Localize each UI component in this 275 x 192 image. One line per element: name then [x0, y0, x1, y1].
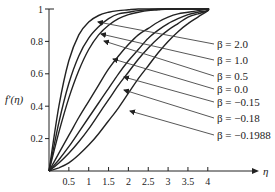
leader-arrow-icon [124, 77, 214, 102]
beta-label: β = −0.18 [217, 112, 260, 124]
y-tick-label: 0.8 [31, 36, 44, 47]
curve--0.18 [49, 9, 209, 171]
y-tick-label: 0.6 [31, 68, 44, 79]
beta-label: β = −0.15 [217, 96, 260, 108]
x-tick-label: 0.5 [63, 176, 76, 187]
curve-2.0 [49, 9, 209, 171]
velocity-profile-curves [49, 9, 209, 171]
x-tick-label: 2 [126, 176, 131, 187]
curve-0.5 [49, 9, 209, 171]
x-tick-label: 2.5 [142, 176, 155, 187]
x-axis-title: η [263, 165, 268, 177]
curve-1.0 [49, 9, 209, 171]
beta-label: β = 1.0 [217, 54, 249, 66]
curve-0.0 [49, 9, 209, 171]
x-tick-label: 1 [86, 176, 91, 187]
y-axis-ticks: 10.80.60.40.2 [31, 4, 50, 145]
y-tick-label: 0.2 [31, 133, 44, 144]
beta-labels: β = 2.0β = 1.0β = 0.5β = 0.0β = −0.15β =… [217, 38, 271, 141]
leader-arrow-icon [113, 59, 214, 89]
beta-label: β = 0.5 [217, 70, 249, 82]
curve--0.15 [49, 9, 209, 171]
x-tick-label: 3.5 [182, 176, 195, 187]
leader-arrow-icon [124, 90, 214, 118]
x-tick-label: 3 [166, 176, 171, 187]
leader-arrow-icon [130, 111, 214, 135]
y-tick-label: 0.4 [31, 101, 44, 112]
y-tick-label: 1 [38, 4, 43, 15]
beta-label: β = 2.0 [217, 38, 249, 50]
y-axis-title: f′(η) [5, 93, 24, 106]
x-tick-label: 1.5 [102, 176, 115, 187]
x-axis [49, 168, 259, 174]
x-axis-arrow-icon [252, 168, 259, 174]
x-tick-label: 4 [205, 176, 210, 187]
beta-label: β = 0.0 [217, 83, 249, 95]
curve--0.1988 [49, 9, 209, 171]
beta-label: β = −0.1988 [217, 129, 271, 141]
boundary-layer-velocity-chart: 10.80.60.40.2 0.511.522.533.54 f′(η) η β… [0, 0, 275, 192]
x-axis-ticks: 0.511.522.533.54 [63, 167, 211, 187]
